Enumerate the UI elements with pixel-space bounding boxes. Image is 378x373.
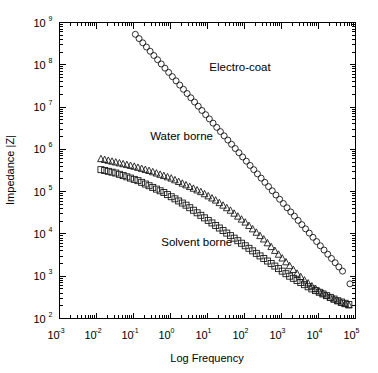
x-tick-label: 10 [269,329,281,341]
data-point-square [190,207,196,213]
data-point-square [250,248,256,254]
y-tick-exponent: 8 [49,57,53,64]
data-point-square [279,268,285,274]
y-axis-title: Impedance |Z| [4,135,16,205]
data-point-square [139,179,145,185]
x-tick-label: 10 [158,329,170,341]
data-point-triangle [264,239,271,245]
data-point-circle [340,268,346,274]
data-point-square [142,181,148,187]
data-point-square [253,250,259,256]
x-tick-label: 10 [343,329,355,341]
data-point-square [235,238,241,244]
data-point-square [209,220,215,226]
y-tick-label: 10 [33,228,45,240]
x-tick-exponent: 4 [319,327,323,334]
data-point-square [205,217,211,223]
data-point-square [283,271,289,277]
data-point-square [287,273,293,279]
data-point-square [194,210,200,216]
x-tick-label: 10 [306,329,318,341]
data-point-square [157,188,163,194]
y-tick-exponent: 7 [49,99,53,106]
y-tick-label: 10 [33,186,45,198]
data-point-triangle [275,251,282,257]
chart-canvas: 10-310-210-1100101102103104105 102103104… [0,0,378,373]
data-point-triangle [286,262,293,268]
data-point-triangle [279,255,286,261]
data-point-square [146,183,152,189]
x-tick-exponent: 5 [356,327,360,334]
y-tick-label: 10 [33,17,45,29]
data-point-square [216,225,222,231]
data-point-square [161,189,167,195]
y-tick-label: 10 [33,270,45,282]
x-tick-label: 10 [232,329,244,341]
x-tick-label: 10 [195,329,207,341]
y-tick-exponent: 6 [49,141,53,148]
data-point-triangle [268,243,275,249]
x-tick-exponent: 1 [208,327,212,334]
series-label-water-borne: Water borne [150,130,213,142]
x-axis-tick-labels: 10-310-210-1100101102103104105 [47,327,359,341]
x-tick-exponent: -3 [58,327,64,334]
data-point-square [272,263,278,269]
data-point-triangle [283,258,290,264]
data-point-triangle [290,266,297,272]
y-tick-exponent: 3 [49,268,53,275]
y-tick-label: 10 [33,143,45,155]
series-label-electro-coat: Electro-coat [209,61,271,73]
data-point-square [150,184,156,190]
data-point-triangle [272,247,279,253]
data-point-square [202,215,208,221]
data-point-square [179,200,185,206]
x-tick-exponent: 3 [282,327,286,334]
x-tick-exponent: 0 [171,327,175,334]
data-point-square [176,198,182,204]
data-point-square [220,228,226,234]
data-point-square [213,222,219,228]
data-point-square [268,261,274,267]
series-triangle [98,155,353,308]
y-tick-exponent: 2 [49,311,53,318]
data-point-square [187,205,193,211]
data-point-square [276,266,282,272]
data-point-circle [347,281,353,287]
y-tick-label: 10 [33,313,45,325]
x-axis-title: Log Frequency [170,352,244,364]
data-point-square [168,194,174,200]
data-point-square [294,277,300,283]
data-point-square [239,240,245,246]
data-point-square [165,192,171,198]
data-point-square [172,196,178,202]
data-point-square [261,255,267,261]
impedance-chart: 10-310-210-1100101102103104105 102103104… [0,0,378,373]
y-axis-tick-labels: 102103104105106107108109 [33,15,52,325]
x-tick-exponent: -1 [132,327,138,334]
data-point-square [242,243,248,249]
data-point-square [153,186,159,192]
data-point-square [183,202,189,208]
x-tick-exponent: -2 [95,327,101,334]
y-tick-exponent: 4 [49,226,53,233]
series-label-solvent-borne: Solvent borne [161,236,232,248]
data-point-square [198,212,204,218]
y-tick-label: 10 [33,59,45,71]
y-tick-exponent: 5 [49,184,53,191]
y-tick-label: 10 [33,101,45,113]
x-tick-exponent: 2 [245,327,249,334]
data-point-square [257,253,263,259]
y-tick-exponent: 9 [49,15,53,22]
data-point-square [264,258,270,264]
data-point-square [246,245,252,251]
